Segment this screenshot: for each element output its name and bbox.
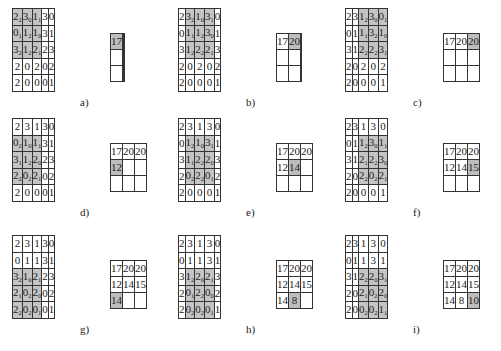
input-cell-in-window: 01 bbox=[13, 25, 23, 42]
input-cell-in-window: 21 bbox=[32, 168, 42, 185]
input-cell-in-window: 22 bbox=[13, 168, 23, 185]
input-cell: 0 bbox=[48, 9, 55, 26]
kernel-weight: 1 bbox=[38, 276, 41, 283]
panel-label: g) bbox=[80, 323, 89, 335]
output-cell: 20 bbox=[289, 261, 301, 277]
input-cell-in-window: 10 bbox=[378, 25, 388, 42]
input-cell-in-window: 10 bbox=[195, 9, 205, 26]
output-matrix: 172020 bbox=[443, 33, 480, 82]
kernel-weight: 2 bbox=[28, 309, 31, 316]
input-cell-in-window: 01 bbox=[378, 9, 388, 26]
kernel-weight: 1 bbox=[384, 49, 387, 56]
output-cell-empty bbox=[277, 50, 289, 66]
input-cell-in-window: 02 bbox=[185, 168, 195, 185]
input-cell: 3 bbox=[214, 269, 221, 286]
input-cell-in-window: 22 bbox=[195, 285, 205, 302]
kernel-weight: 2 bbox=[374, 49, 377, 56]
output-cell-empty bbox=[468, 50, 480, 66]
kernel-weight: 0 bbox=[211, 292, 214, 299]
input-cell: 0 bbox=[378, 119, 388, 136]
input-cell: 0 bbox=[185, 58, 195, 75]
kernel-weight: 0 bbox=[201, 16, 204, 23]
output-cell: 17 bbox=[277, 34, 289, 50]
output-cell: 14 bbox=[444, 293, 456, 309]
input-cell: 0 bbox=[205, 75, 215, 92]
kernel-weight: 2 bbox=[19, 142, 22, 149]
input-cell-in-window: 12 bbox=[185, 42, 195, 59]
kernel-weight: 0 bbox=[384, 32, 387, 39]
input-cell-in-window: 31 bbox=[13, 152, 23, 169]
output-cell: 20 bbox=[135, 261, 147, 277]
input-cell-in-window: 22 bbox=[195, 168, 205, 185]
output-cell-empty bbox=[456, 50, 468, 66]
output-cell: 20 bbox=[289, 144, 301, 160]
kernel-weight: 2 bbox=[365, 49, 368, 56]
input-cell: 1 bbox=[378, 185, 388, 202]
kernel-weight: 1 bbox=[38, 175, 41, 182]
input-cell: 0 bbox=[185, 185, 195, 202]
output-cell-empty bbox=[301, 66, 302, 82]
kernel-weight: 2 bbox=[201, 292, 204, 299]
output-cell: 20 bbox=[468, 34, 480, 50]
input-cell-in-window: 31 bbox=[378, 269, 388, 286]
input-cell: 3 bbox=[48, 269, 55, 286]
output-cell-empty bbox=[468, 176, 480, 192]
output-cell: 8 bbox=[289, 293, 301, 309]
output-cell-empty bbox=[277, 66, 289, 82]
input-cell-in-window: 31 bbox=[205, 9, 215, 26]
kernel-weight: 1 bbox=[211, 16, 214, 23]
input-cell: 1 bbox=[359, 119, 369, 136]
output-cell-empty bbox=[301, 50, 302, 66]
input-cell: 2 bbox=[32, 58, 42, 75]
output-cell: 12 bbox=[111, 277, 123, 293]
input-cell-in-window: 12 bbox=[185, 269, 195, 286]
input-cell: 2 bbox=[13, 185, 23, 202]
input-cell-in-window: 20 bbox=[205, 152, 215, 169]
input-cell: 2 bbox=[13, 58, 23, 75]
input-cell-in-window: 02 bbox=[195, 302, 205, 319]
kernel-weight: 0 bbox=[28, 16, 31, 23]
input-cell: 0 bbox=[214, 9, 221, 26]
input-cell-in-window: 02 bbox=[359, 302, 369, 319]
output-cell: 20 bbox=[468, 261, 480, 277]
input-cell-in-window: 02 bbox=[22, 285, 32, 302]
output-cell-empty bbox=[444, 66, 456, 82]
input-matrix: 2230113001121031321221232020220001 bbox=[12, 8, 55, 92]
input-matrix: 2321031001112301312222132020220001 bbox=[178, 8, 221, 92]
input-cell: 0 bbox=[205, 185, 215, 202]
kernel-weight: 2 bbox=[374, 292, 377, 299]
output-cell-empty bbox=[124, 34, 125, 50]
output-cell-empty bbox=[289, 50, 301, 66]
output-cell: 20 bbox=[301, 261, 313, 277]
kernel-weight: 1 bbox=[384, 142, 387, 149]
input-cell: 1 bbox=[48, 252, 55, 269]
input-cell-in-window: 10 bbox=[22, 135, 32, 152]
input-cell-in-window: 30 bbox=[368, 9, 378, 26]
input-cell-in-window: 22 bbox=[359, 269, 369, 286]
input-cell: 0 bbox=[48, 236, 55, 253]
kernel-weight: 0 bbox=[211, 32, 214, 39]
input-cell-in-window: 30 bbox=[378, 152, 388, 169]
output-matrix: 1720201214 bbox=[276, 143, 313, 192]
output-cell: 20 bbox=[468, 144, 480, 160]
output-cell-empty bbox=[124, 50, 125, 66]
input-cell: 1 bbox=[48, 25, 55, 42]
input-cell-in-window: 12 bbox=[359, 135, 369, 152]
input-cell: 3 bbox=[368, 236, 378, 253]
input-cell-in-window: 01 bbox=[32, 302, 42, 319]
output-cell-empty bbox=[456, 176, 468, 192]
output-cell: 12 bbox=[111, 160, 123, 176]
kernel-weight: 1 bbox=[384, 16, 387, 23]
input-cell-in-window: 11 bbox=[32, 135, 42, 152]
input-cell: 0 bbox=[195, 185, 205, 202]
input-cell: 0 bbox=[359, 185, 369, 202]
output-cell: 10 bbox=[468, 293, 480, 309]
input-cell: 1 bbox=[214, 75, 221, 92]
kernel-weight: 1 bbox=[19, 32, 22, 39]
input-cell: 3 bbox=[205, 252, 215, 269]
output-cell-empty bbox=[123, 176, 135, 192]
output-cell: 15 bbox=[301, 277, 313, 293]
output-cell-empty bbox=[468, 66, 480, 82]
kernel-weight: 0 bbox=[384, 292, 387, 299]
input-cell: 1 bbox=[22, 252, 32, 269]
